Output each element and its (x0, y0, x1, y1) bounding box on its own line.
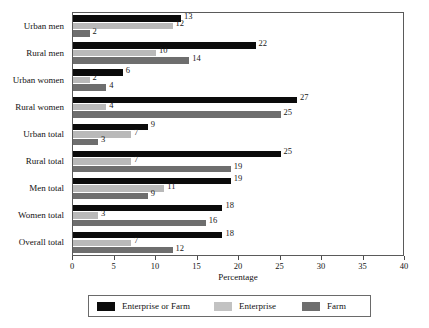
bar-chart-figure: Urban menRural menUrban womenRural women… (0, 0, 429, 328)
chart-category-group: 221014 (73, 40, 403, 67)
legend-item: Enterprise (214, 301, 276, 311)
x-axis-tick (280, 256, 281, 260)
legend-label: Enterprise (239, 301, 276, 311)
bar-value-label: 25 (284, 108, 293, 117)
bar-value-label: 3 (101, 209, 105, 218)
bar-group: 27425 (73, 97, 403, 120)
x-axis-tick (238, 256, 239, 260)
x-axis-tick (114, 256, 115, 260)
bar (73, 151, 281, 157)
bar-value-label: 6 (126, 66, 130, 75)
chart-category-group: 27425 (73, 94, 403, 121)
x-axis-tick-label: 10 (151, 261, 160, 271)
x-axis-tick-label: 25 (275, 261, 284, 271)
chart-category-group: 13122 (73, 13, 403, 40)
bar (73, 178, 231, 184)
bar (73, 247, 173, 253)
x-axis-tick-label: 15 (192, 261, 201, 271)
legend-item: Enterprise or Farm (97, 301, 190, 311)
bar-value-label: 19 (234, 162, 243, 171)
x-axis-tick-label: 35 (358, 261, 367, 271)
bar-value-label: 3 (101, 135, 105, 144)
bar-value-label: 22 (259, 39, 268, 48)
bar-value-label: 16 (209, 216, 218, 225)
bar-group: 19119 (73, 178, 403, 201)
bar-value-label: 13 (184, 12, 193, 21)
bar (73, 30, 90, 36)
chart-category-group: 18712 (73, 230, 403, 257)
y-axis-tick-label: Rural women (15, 102, 64, 112)
y-axis-tick-label: Urban total (23, 129, 64, 139)
x-axis-tick (197, 256, 198, 260)
bar (73, 111, 281, 117)
chart-category-group: 25719 (73, 149, 403, 176)
bar (73, 69, 123, 75)
legend-label: Farm (327, 301, 346, 311)
chart-category-group: 624 (73, 67, 403, 94)
bar-value-label: 18 (225, 201, 234, 210)
x-axis-tick-label: 30 (317, 261, 326, 271)
bar (73, 23, 173, 29)
chart-category-group: 973 (73, 121, 403, 148)
bar-group: 221014 (73, 42, 403, 65)
bar (73, 104, 106, 110)
y-axis-tick-label: Women total (18, 210, 64, 220)
bar (73, 212, 98, 218)
bar-value-label: 27 (300, 93, 309, 102)
legend-swatch-icon (97, 302, 115, 311)
bar-group: 18316 (73, 205, 403, 228)
x-axis-tick (321, 256, 322, 260)
bar-value-label: 11 (167, 182, 175, 191)
bar (73, 193, 148, 199)
bar (73, 15, 181, 21)
x-axis-tick (404, 256, 405, 260)
bar-value-label: 18 (225, 229, 234, 238)
bar (73, 205, 222, 211)
bar-group: 973 (73, 124, 403, 147)
bar (73, 77, 90, 83)
y-axis-tick-label: Men total (29, 183, 64, 193)
bar-group: 18712 (73, 232, 403, 255)
bar-value-label: 19 (234, 174, 243, 183)
bar-value-label: 4 (109, 81, 113, 90)
bar-value-label: 7 (134, 236, 138, 245)
y-axis-tick-label: Rural total (26, 156, 64, 166)
bar-value-label: 25 (284, 147, 293, 156)
bar (73, 57, 189, 63)
bar (73, 97, 297, 103)
bar (73, 166, 231, 172)
bar-value-label: 10 (159, 46, 168, 55)
bar-value-label: 9 (151, 189, 155, 198)
x-axis-tick (72, 256, 73, 260)
bar-group: 25719 (73, 151, 403, 174)
bar-value-label: 9 (151, 120, 155, 129)
bar-group: 624 (73, 69, 403, 92)
y-axis-category-labels: Urban menRural menUrban womenRural women… (0, 12, 68, 256)
bar (73, 240, 131, 246)
x-axis-tick-label: 0 (70, 261, 74, 271)
plot-area: 1312222101462427425973257191911918316187… (72, 12, 404, 256)
legend-swatch-icon (302, 302, 320, 311)
bar-value-label: 14 (192, 54, 201, 63)
bar (73, 220, 206, 226)
y-axis-tick-label: Urban men (24, 21, 64, 31)
y-axis-tick-label: Urban women (13, 75, 64, 85)
bar-value-label: 7 (134, 155, 138, 164)
chart-legend: Enterprise or FarmEnterpriseFarm (88, 295, 371, 317)
bar-value-label: 12 (176, 244, 185, 253)
bar (73, 50, 156, 56)
bar-value-label: 4 (109, 101, 113, 110)
bar-value-label: 12 (176, 19, 185, 28)
bar-value-label: 2 (93, 27, 97, 36)
y-axis-tick-label: Rural men (26, 48, 64, 58)
bar-group: 13122 (73, 15, 403, 38)
bar (73, 232, 222, 238)
bar-value-label: 2 (93, 73, 97, 82)
y-axis-tick-label: Overall total (19, 237, 64, 247)
legend-label: Enterprise or Farm (122, 301, 190, 311)
bar (73, 84, 106, 90)
chart-category-group: 18316 (73, 203, 403, 230)
x-axis-tick-label: 20 (234, 261, 243, 271)
legend-swatch-icon (214, 302, 232, 311)
chart-category-group: 19119 (73, 176, 403, 203)
